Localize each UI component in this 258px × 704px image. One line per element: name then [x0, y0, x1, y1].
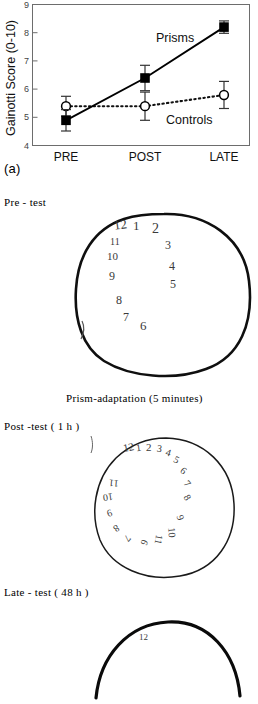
x-tick-late: LATE: [209, 150, 238, 164]
clock-numeral: 4: [169, 259, 175, 274]
pre-test-clock-drawing: 121234567891011: [68, 209, 256, 381]
late-test-label: Late - test ( 48 h ): [4, 586, 89, 598]
panel-a-caption: (a): [4, 161, 21, 176]
clock-numeral: 10: [107, 250, 118, 262]
y-axis-tick-labels: 4 5 6 7 8 9: [24, 0, 29, 151]
clock-numeral: 12: [139, 632, 148, 642]
prism-adaptation-label: Prism-adaptation (5 minutes): [66, 392, 203, 404]
svg-text:8: 8: [24, 28, 29, 38]
pre-test-label: Pre - test: [4, 196, 46, 208]
post-test-label: Post -test ( 1 h ): [4, 420, 79, 432]
clock-numeral: 11: [110, 236, 120, 247]
late-test-clock-outline: [92, 612, 244, 704]
x-axis-tick-labels: PRE POST LATE: [54, 150, 239, 164]
clock-numeral: 12: [113, 216, 128, 234]
gainotti-score-chart: 4 5 6 7 8 9 Gainotti Score (0-10): [0, 0, 258, 165]
post-test-clock-drawing: 12123456789101167891011: [88, 434, 240, 582]
clock-numeral: 2: [152, 221, 159, 237]
clock-numeral: 6: [140, 318, 147, 334]
clock-numeral: 12: [122, 440, 135, 454]
svg-text:5: 5: [24, 112, 29, 122]
clock-numeral: 11: [153, 534, 166, 545]
x-tick-post: POST: [129, 150, 162, 164]
svg-text:9: 9: [24, 0, 29, 10]
prisms-series-label: Prisms: [156, 31, 194, 45]
clock-numeral: 1: [133, 218, 140, 234]
clock-numeral: 10: [166, 527, 178, 538]
clock-numeral: 2: [146, 441, 152, 453]
figure-panel-a: 4 5 6 7 8 9 Gainotti Score (0-10): [0, 0, 258, 192]
clock-numeral: 3: [165, 238, 171, 253]
svg-text:7: 7: [24, 56, 29, 66]
controls-series-label: Controls: [166, 113, 213, 127]
clock-numeral: 5: [170, 277, 176, 292]
y-axis-title: Gainotti Score (0-10): [4, 20, 18, 136]
svg-text:4: 4: [24, 141, 29, 151]
x-tick-pre: PRE: [54, 150, 79, 164]
clock-numeral: 7: [123, 310, 129, 325]
clock-numeral: 11: [109, 478, 120, 490]
pre-test-clock-outline: [68, 209, 256, 381]
svg-text:6: 6: [24, 84, 29, 94]
clock-numeral: 9: [109, 269, 115, 284]
clock-numeral: 8: [116, 293, 122, 308]
clock-numeral: 10: [102, 491, 113, 503]
late-test-clock-drawing: 12: [92, 612, 244, 704]
